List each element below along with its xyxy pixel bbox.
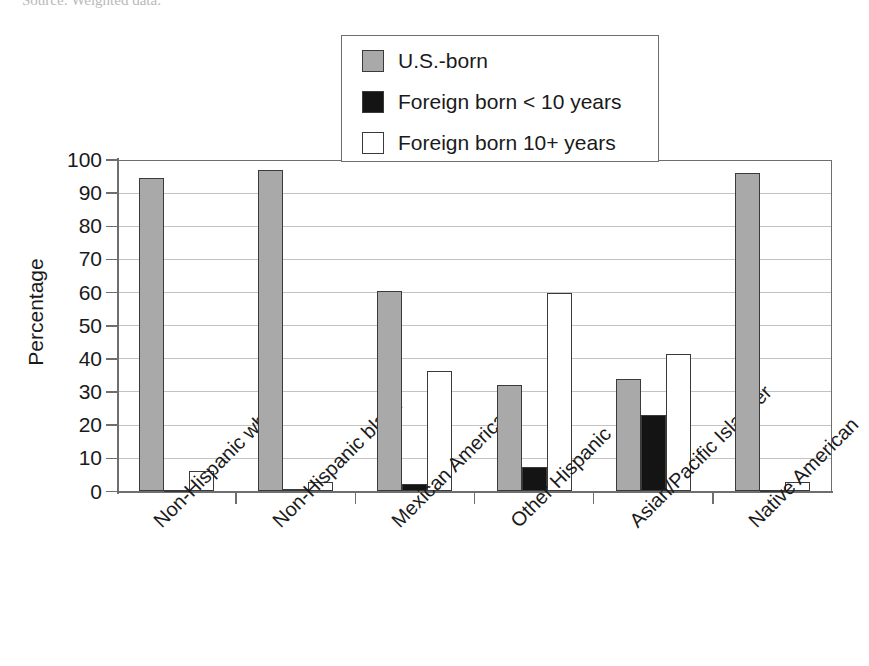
y-axis-tick	[106, 159, 117, 161]
gridline	[118, 292, 831, 293]
x-axis-tick	[355, 492, 357, 504]
legend-item-ge10[interactable]: Foreign born 10+ years	[362, 132, 616, 154]
y-axis-tick	[106, 292, 117, 294]
y-axis-tick	[106, 424, 117, 426]
chart-legend: U.S.-bornForeign born < 10 yearsForeign …	[341, 35, 659, 162]
y-axis-tick	[106, 358, 117, 360]
x-axis-tick	[474, 492, 476, 504]
y-axis-tick	[106, 458, 117, 460]
y-axis-tick	[106, 391, 117, 393]
gridline	[118, 193, 831, 194]
legend-label: Foreign born 10+ years	[398, 132, 616, 154]
gridline	[118, 358, 831, 359]
x-axis-tick	[712, 492, 714, 504]
legend-swatch-icon-lt10	[362, 91, 384, 113]
y-axis-tick	[106, 325, 117, 327]
y-axis-tick-label: 100	[56, 149, 102, 170]
gridline	[118, 226, 831, 227]
bar-usborn-2	[377, 291, 402, 492]
bar-chart-figure: 1009080706050403020100 Percentage U.S.-b…	[0, 0, 869, 666]
legend-item-usborn[interactable]: U.S.-born	[362, 50, 488, 72]
y-axis-tick-label: 0	[56, 481, 102, 502]
legend-label: Foreign born < 10 years	[398, 91, 622, 113]
gridline	[118, 325, 831, 326]
y-axis-tick-label: 30	[56, 381, 102, 402]
y-axis-tick-label: 50	[56, 315, 102, 336]
gridline	[118, 259, 831, 260]
y-axis-line	[117, 158, 119, 494]
bar-usborn-3	[497, 385, 522, 491]
y-axis-tick-label: 70	[56, 248, 102, 269]
legend-item-lt10[interactable]: Foreign born < 10 years	[362, 91, 622, 113]
bar-usborn-4	[616, 379, 641, 492]
y-axis-tick-label: 60	[56, 282, 102, 303]
y-axis-tick	[106, 192, 117, 194]
gridline	[118, 391, 831, 392]
y-axis-tick-label: 80	[56, 215, 102, 236]
y-axis-tick	[106, 491, 117, 493]
legend-swatch-icon-usborn	[362, 50, 384, 72]
bar-usborn-0	[139, 178, 164, 491]
x-axis-tick	[235, 492, 237, 504]
legend-label: U.S.-born	[398, 50, 488, 72]
y-axis-tick	[106, 226, 117, 228]
y-axis-tick-label: 20	[56, 414, 102, 435]
x-axis-tick	[593, 492, 595, 504]
y-axis-tick-label: 40	[56, 348, 102, 369]
legend-swatch-icon-ge10	[362, 132, 384, 154]
y-axis-tick	[106, 259, 117, 261]
bar-usborn-1	[258, 170, 283, 492]
y-axis-tick-label: 10	[56, 447, 102, 468]
bar-usborn-5	[735, 173, 760, 491]
y-axis-tick-label: 90	[56, 182, 102, 203]
y-axis-labels: 1009080706050403020100	[46, 0, 102, 666]
y-axis-title: Percentage	[24, 217, 48, 407]
